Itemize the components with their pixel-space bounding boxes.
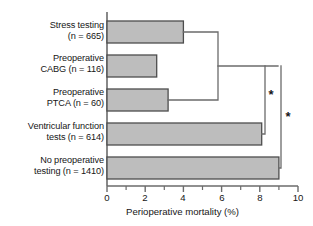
bar-no-preoperative-testing xyxy=(107,157,279,179)
significance-star-upper: * xyxy=(268,87,274,102)
x-tick-label-2: 2 xyxy=(142,192,147,203)
x-axis-title-text: Perioperative mortality (%) xyxy=(126,206,239,217)
bar-preoperative-ptca xyxy=(107,89,168,111)
bar-ventricular-function-tests xyxy=(107,123,262,145)
x-tick-label-10: 10 xyxy=(293,192,304,203)
bar-chart-figure: Stress testing (n = 665) Preoperative CA… xyxy=(0,0,313,226)
x-tick-label-4: 4 xyxy=(180,192,185,203)
bracket-group-vs-no-testing xyxy=(279,66,281,168)
x-axis-title: Perioperative mortality (%) xyxy=(0,206,313,217)
significance-star-lower: * xyxy=(285,109,291,124)
bar-stress-testing xyxy=(107,21,183,43)
bar-preoperative-cabg xyxy=(107,55,157,77)
x-tick-label-6: 6 xyxy=(219,192,224,203)
x-tick-label-8: 8 xyxy=(257,192,262,203)
plot-area: * * xyxy=(0,0,313,226)
x-tick-label-0: 0 xyxy=(104,192,109,203)
